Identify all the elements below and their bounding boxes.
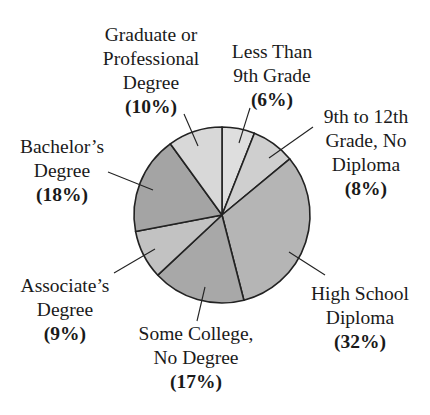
label-text: Professional [103, 47, 199, 71]
label-9th-to-12th-grade: 9th to 12th Grade, No Diploma (8%) [324, 105, 409, 201]
label-text: No Degree [139, 346, 254, 370]
label-text: 9th Grade [232, 64, 312, 88]
label-text: Diploma [311, 306, 409, 330]
label-percent: (10%) [103, 95, 199, 119]
label-text: High School [311, 282, 409, 306]
label-text: Bachelor’s [20, 135, 104, 159]
label-high-school-diploma: High School Diploma (32%) [311, 282, 409, 354]
label-percent: (18%) [20, 183, 104, 207]
label-percent: (32%) [311, 330, 409, 354]
label-graduate-degree: Graduate or Professional Degree (10%) [103, 23, 199, 119]
label-text: Degree [21, 298, 110, 322]
label-text: 9th to 12th [324, 105, 409, 129]
label-text: Degree [20, 159, 104, 183]
label-percent: (17%) [139, 370, 254, 394]
label-associates-degree: Associate’s Degree (9%) [21, 274, 110, 346]
leader-line-9th-12th [269, 127, 313, 158]
label-some-college: Some College, No Degree (17%) [139, 322, 254, 394]
label-text: Graduate or [103, 23, 199, 47]
label-text: Grade, No [324, 129, 409, 153]
label-text: Associate’s [21, 274, 110, 298]
label-text: Diploma [324, 153, 409, 177]
label-text: Some College, [139, 322, 254, 346]
label-percent: (6%) [232, 88, 312, 112]
label-less-than-9th-grade: Less Than 9th Grade (6%) [232, 40, 312, 112]
label-bachelors-degree: Bachelor’s Degree (18%) [20, 135, 104, 207]
label-percent: (8%) [324, 177, 409, 201]
label-text: Less Than [232, 40, 312, 64]
label-text: Degree [103, 71, 199, 95]
label-percent: (9%) [21, 322, 110, 346]
